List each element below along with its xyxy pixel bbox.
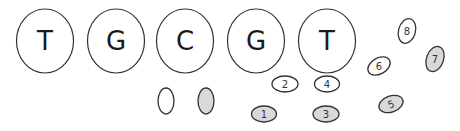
nucleotide-label: G [106, 26, 126, 56]
nucleotide-circle: C [157, 9, 214, 73]
numbered-ellipse-4: 4 [315, 76, 340, 92]
svg-text:4: 4 [324, 79, 330, 90]
nucleotide-label: T [318, 26, 335, 56]
svg-text:1: 1 [261, 109, 267, 120]
numbered-ellipse-1: 1 [252, 106, 277, 122]
nucleotide-circle: G [88, 9, 145, 73]
legend-ellipses [158, 88, 214, 114]
numbered-ellipse-7: 7 [423, 44, 448, 74]
nucleotide-label: G [246, 26, 266, 56]
nucleotide-circle: T [299, 9, 356, 73]
numbered-ellipse-6: 6 [365, 53, 394, 79]
nucleotide-label: C [176, 26, 194, 56]
numbered-ellipse-8: 8 [396, 17, 419, 46]
nucleotide-label: T [36, 26, 53, 56]
nucleotide-circle: T [17, 9, 74, 73]
empty-ellipse [158, 88, 174, 114]
svg-text:2: 2 [282, 79, 288, 90]
svg-text:8: 8 [404, 26, 410, 37]
numbered-ellipse-3: 3 [313, 106, 339, 122]
numbered-ellipse-2: 2 [272, 76, 298, 92]
shaded-ellipse [198, 88, 214, 114]
svg-text:7: 7 [432, 54, 438, 65]
nucleotide-circle: G [228, 9, 285, 73]
nucleotide-sequence: T G C G T [17, 9, 356, 73]
numbered-ellipse-5: 5 [377, 92, 406, 116]
svg-text:6: 6 [376, 61, 382, 72]
diagram-canvas: T G C G T 1 2 3 [0, 0, 460, 131]
svg-text:3: 3 [323, 109, 329, 120]
